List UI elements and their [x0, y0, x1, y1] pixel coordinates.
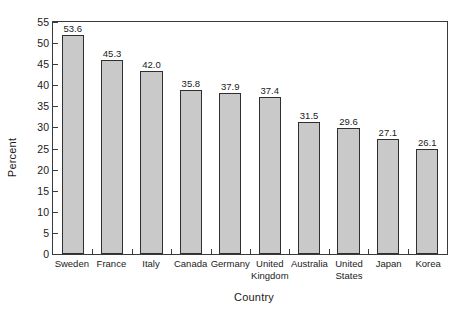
x-axis-title: Country — [52, 291, 456, 303]
x-axis-category-label-line: Sweden — [52, 258, 92, 270]
bar-value-label: 37.4 — [260, 85, 280, 96]
x-axis-category-label-line: Germany — [210, 258, 250, 270]
bar-value-label: 42.0 — [141, 59, 161, 70]
bar[interactable]: 26.1 — [416, 149, 438, 254]
y-axis-tick-label: 0 — [43, 248, 49, 261]
bar-value-label: 31.5 — [299, 110, 319, 121]
x-axis-category-label-line: Italy — [131, 258, 171, 270]
bar-slot: 42.0 — [132, 22, 171, 254]
bar-slot: 53.6 — [53, 22, 92, 254]
x-axis-category-label-line: Kingdom — [250, 270, 290, 282]
x-axis-category-label: Italy — [131, 258, 171, 270]
bar-value-label: 29.6 — [338, 116, 358, 127]
bar-slot: 37.9 — [211, 22, 250, 254]
y-axis-tick: 0 — [53, 254, 58, 255]
y-axis-tick-label: 45 — [37, 58, 49, 71]
bar[interactable]: 27.1 — [377, 139, 399, 254]
y-axis-tick-label: 50 — [37, 37, 49, 50]
bar-value-label: 45.3 — [102, 48, 122, 59]
y-axis-tick-label: 20 — [37, 164, 49, 177]
bar[interactable]: 37.4 — [259, 97, 281, 254]
bar[interactable]: 45.3 — [101, 60, 123, 254]
bar-slot: 37.4 — [250, 22, 289, 254]
x-axis-category-label: Germany — [210, 258, 250, 270]
y-axis-tick-label: 15 — [37, 185, 49, 198]
bar-value-label: 27.1 — [378, 127, 398, 138]
x-axis-category-label: Australia — [290, 258, 330, 270]
y-axis-tick-label: 30 — [37, 121, 49, 134]
x-axis-category-label: France — [92, 258, 132, 270]
bar[interactable]: 53.6 — [62, 35, 84, 254]
bar-slot: 26.1 — [408, 22, 447, 254]
y-axis-tick-label: 35 — [37, 100, 49, 113]
bar-value-label: 37.9 — [220, 81, 240, 92]
x-axis-category-label-line: Canada — [171, 258, 211, 270]
bar[interactable]: 35.8 — [180, 90, 202, 255]
bar-slot: 45.3 — [92, 22, 131, 254]
bar-chart-figure: Percent 0510152025303540455055 53.645.34… — [0, 0, 466, 315]
x-axis-category-label-line: Japan — [369, 258, 409, 270]
bar-value-label: 35.8 — [181, 78, 201, 89]
bar[interactable]: 31.5 — [298, 122, 320, 254]
bar-value-label: 53.6 — [63, 23, 83, 34]
plot-area: 0510152025303540455055 53.645.342.035.83… — [52, 21, 448, 255]
bar-slot: 27.1 — [368, 22, 407, 254]
bar-slot: 31.5 — [289, 22, 328, 254]
bar-value-label: 26.1 — [417, 137, 437, 148]
x-axis-category-label-line: Australia — [290, 258, 330, 270]
y-axis-tick-label: 10 — [37, 206, 49, 219]
bar-slot: 35.8 — [171, 22, 210, 254]
bar-slot: 29.6 — [329, 22, 368, 254]
plot-inner: 0510152025303540455055 53.645.342.035.83… — [53, 22, 447, 254]
y-axis-tick-label: 25 — [37, 143, 49, 156]
x-axis-category-label-line: France — [92, 258, 132, 270]
x-axis-category-label: Korea — [408, 258, 448, 270]
y-axis-tick-label: 5 — [43, 227, 49, 240]
y-axis-tick-label: 55 — [37, 16, 49, 29]
x-axis-category-label-line: Korea — [408, 258, 448, 270]
x-axis-category-label-line: States — [329, 270, 369, 282]
x-axis-category-label-line: United — [329, 258, 369, 270]
y-axis-tick-label: 40 — [37, 79, 49, 92]
bar[interactable]: 42.0 — [140, 71, 162, 254]
x-axis-category-label-line: United — [250, 258, 290, 270]
x-axis-category-label: UnitedKingdom — [250, 258, 290, 281]
y-axis-title: Percent — [0, 0, 24, 315]
bar[interactable]: 29.6 — [337, 128, 359, 254]
bar[interactable]: 37.9 — [219, 93, 241, 254]
x-axis-category-label: Canada — [171, 258, 211, 270]
x-axis-category-label: Sweden — [52, 258, 92, 270]
x-axis-category-label: Japan — [369, 258, 409, 270]
x-axis-category-label: UnitedStates — [329, 258, 369, 281]
